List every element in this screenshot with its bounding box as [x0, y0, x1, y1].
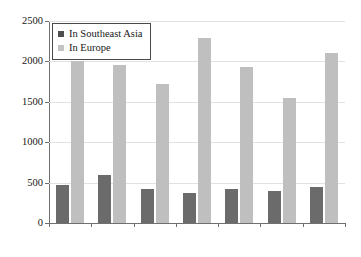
x-axis-tick-mark [218, 223, 219, 227]
x-axis-tick-mark [134, 223, 135, 227]
bar [225, 189, 238, 223]
y-axis-tick-mark [45, 61, 49, 62]
legend-item-southeast-asia: In Southeast Asia [58, 27, 143, 41]
bar [56, 185, 69, 223]
x-axis-tick-mark [260, 223, 261, 227]
bar [113, 65, 126, 223]
bar [71, 61, 84, 223]
bar [240, 67, 253, 223]
bar [156, 84, 169, 223]
x-axis-tick-mark [176, 223, 177, 227]
x-axis-tick-mark [303, 223, 304, 227]
gridline [49, 102, 345, 103]
legend-swatch-icon-europe [58, 45, 64, 51]
legend-swatch-icon-southeast-asia [58, 31, 64, 37]
bar [310, 187, 323, 223]
bar [183, 193, 196, 223]
bar [283, 98, 296, 223]
bar [141, 189, 154, 223]
legend-label-europe: In Europe [69, 43, 111, 54]
legend-item-europe: In Europe [58, 41, 143, 55]
legend-label-southeast-asia: In Southeast Asia [69, 29, 143, 40]
y-axis-tick-label: 500 [27, 177, 43, 188]
gridline [49, 142, 345, 143]
x-axis-line [49, 223, 345, 224]
x-axis-tick-mark [345, 223, 346, 227]
bar [268, 191, 281, 223]
gridline [49, 21, 345, 22]
y-axis-tick-mark [45, 183, 49, 184]
y-axis-tick-label: 2000 [22, 56, 43, 67]
y-axis-tick-label: 1000 [22, 137, 43, 148]
x-axis-tick-mark [91, 223, 92, 227]
bar-chart: 050010001500200025001630–391640–491650–5… [0, 0, 361, 257]
y-axis-tick-mark [45, 102, 49, 103]
bar [325, 53, 338, 223]
gridline [49, 183, 345, 184]
y-axis-tick-mark [45, 21, 49, 22]
y-axis-tick-label: 0 [38, 218, 43, 229]
x-axis-tick-mark [49, 223, 50, 227]
y-axis-tick-label: 1500 [22, 97, 43, 108]
bar [98, 175, 111, 223]
bar [198, 38, 211, 223]
y-axis-tick-mark [45, 142, 49, 143]
chart-legend: In Southeast Asia In Europe [52, 23, 151, 60]
y-axis-tick-label: 2500 [22, 16, 43, 27]
gridline [49, 61, 345, 62]
